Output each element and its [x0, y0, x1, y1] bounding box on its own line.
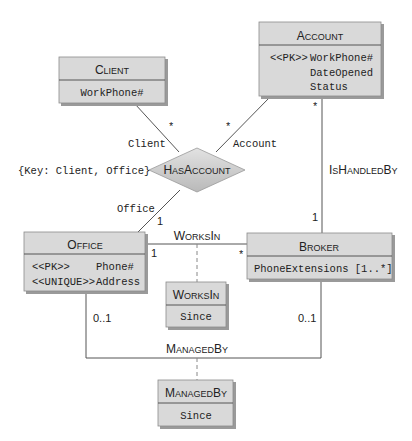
- multiplicity-broker-ishandledby: 1: [312, 211, 318, 223]
- attribute-name: Phone#: [96, 261, 134, 273]
- multiplicity-client: *: [168, 121, 174, 133]
- entity-title: MANAGEDBY: [165, 386, 227, 400]
- entity-account[interactable]: ACCOUNT <<PK>> WorkPhone# DateOpened Sta…: [259, 22, 384, 99]
- multiplicity-broker-managedby: 0..1: [298, 312, 316, 324]
- attribute-name: Status: [310, 81, 348, 93]
- attribute-stereotype: <<PK>>: [270, 52, 308, 64]
- multiplicity-office-managedby: 0..1: [93, 312, 111, 324]
- multiplicity-account: *: [225, 121, 231, 133]
- entity-client[interactable]: CLIENT WorkPhone#: [59, 57, 168, 106]
- attribute-name: WorkPhone#: [310, 52, 373, 64]
- entity-broker[interactable]: BROKER PhoneExtensions [1..*]: [247, 233, 395, 282]
- multiplicity-office-hasaccount: 1: [157, 215, 163, 227]
- multiplicity-broker-worksin: *: [238, 249, 244, 261]
- association-class-managedby[interactable]: MANAGEDBY Since: [158, 380, 236, 429]
- association-class-worksin[interactable]: WORKSIN Since: [166, 282, 229, 330]
- attribute-stereotype: <<UNIQUE>>: [32, 276, 95, 288]
- key-constraint-note: {Key: Client, Office}: [18, 165, 150, 177]
- multiplicity-account-ishandledby: *: [312, 101, 318, 113]
- attribute-name: Since: [180, 410, 212, 422]
- attribute-name: Address: [96, 276, 140, 288]
- worksin-label: WORKSIN: [174, 229, 221, 243]
- entity-title: BROKER: [299, 240, 340, 254]
- entity-title: CLIENT: [95, 63, 130, 77]
- attribute-stereotype: <<PK>>: [32, 261, 70, 273]
- role-client-label: Client: [128, 138, 166, 150]
- attribute-name: PhoneExtensions [1..*]: [254, 263, 393, 275]
- managedby-label: MANAGEDBY: [166, 342, 228, 356]
- attribute-name: Since: [180, 311, 212, 323]
- uml-diagram: CLIENT WorkPhone# ACCOUNT <<PK>> WorkPho…: [0, 0, 412, 441]
- entity-title: ACCOUNT: [297, 29, 344, 43]
- attribute-name: DateOpened: [310, 67, 373, 79]
- entity-office[interactable]: OFFICE <<PK>> Phone# <<UNIQUE>> Address: [24, 232, 148, 294]
- relationship-hasaccount[interactable]: HASACCOUNT: [149, 148, 245, 192]
- entity-title: OFFICE: [67, 238, 102, 252]
- attribute-name: WorkPhone#: [80, 87, 143, 99]
- ishandledby-label: ISHANDLEDBY: [329, 163, 398, 177]
- role-office-label: Office: [117, 203, 155, 215]
- relationship-label: HASACCOUNT: [163, 163, 231, 177]
- multiplicity-office-worksin: 1: [151, 247, 157, 259]
- entity-title: WORKSIN: [173, 288, 220, 302]
- role-account-label: Account: [233, 138, 277, 150]
